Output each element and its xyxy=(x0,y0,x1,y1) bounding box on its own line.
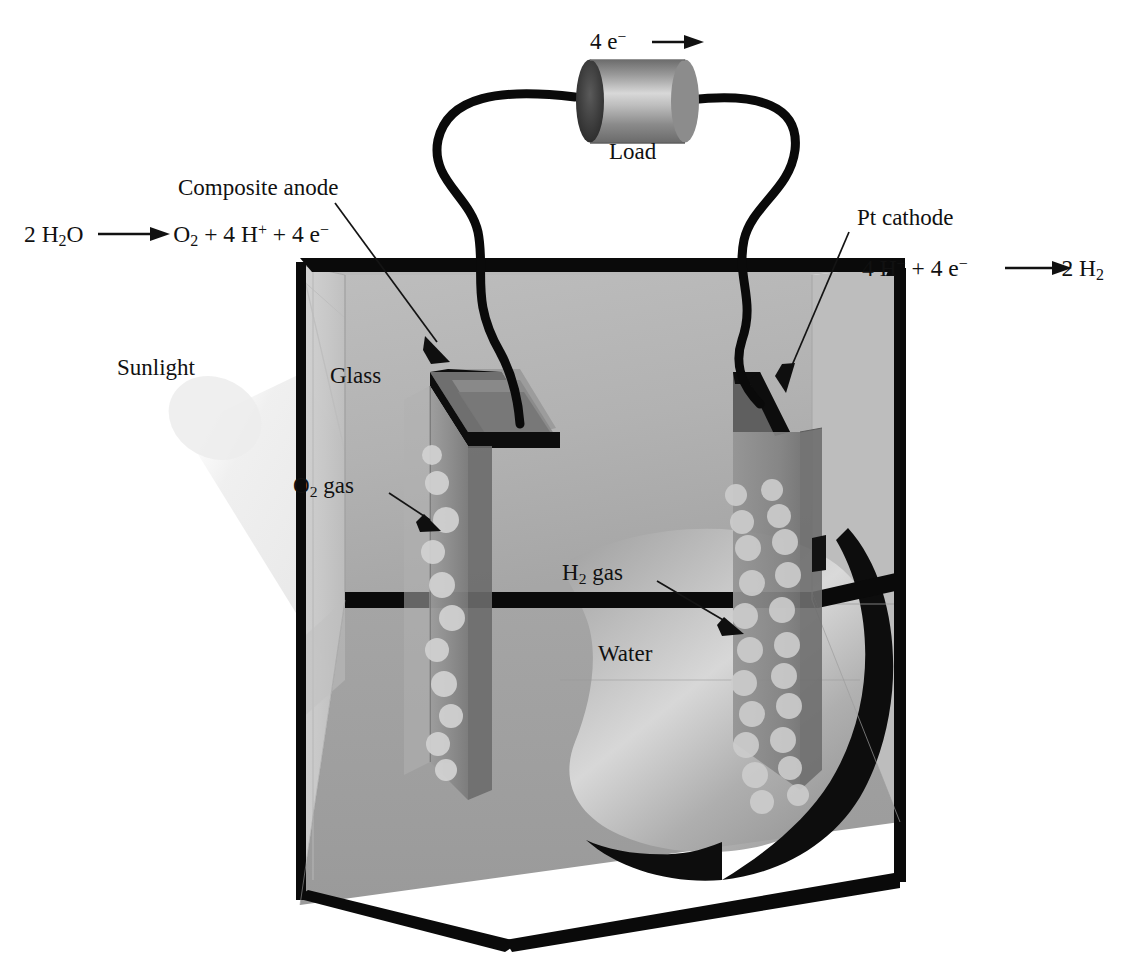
glass-label: Glass xyxy=(330,364,381,387)
anode-equation-reactant: 2 xyxy=(24,221,36,247)
tank-left-front-edge xyxy=(296,262,306,900)
diagram-canvas: 2 H2O O2 + 4 H+ + 4 e− 4 H+ + 4 e− 2 H2 … xyxy=(0,0,1129,956)
anode-plate-side xyxy=(468,446,492,800)
load-component xyxy=(576,60,699,144)
anode-equation: 2 H2O O2 + 4 H+ + 4 e− xyxy=(24,222,329,249)
tank-bottom-front-edge xyxy=(505,872,900,952)
cathode-equation: 4 H+ + 4 e− 2 H2 xyxy=(862,256,1104,283)
composite-anode-label: Composite anode xyxy=(178,176,338,199)
cathode-equation-product-num: 2 xyxy=(1061,255,1073,281)
electron-flow-arrow xyxy=(652,35,704,49)
o2-gas-label: O2 gas xyxy=(293,474,354,500)
load-label: Load xyxy=(609,140,656,163)
tank-right-front-edge xyxy=(894,268,906,882)
cathode-plate-side xyxy=(800,428,822,790)
h2-gas-label: H2 gas xyxy=(562,561,623,587)
pt-cathode-label: Pt cathode xyxy=(857,206,953,229)
electron-flow-label: 4 e− xyxy=(590,29,626,53)
sunlight-label: Sunlight xyxy=(117,356,195,379)
tank-bottom-left-edge xyxy=(296,890,520,952)
diagram-svg xyxy=(0,0,1129,956)
tank-top-back-edge xyxy=(300,258,905,272)
water-label: Water xyxy=(598,642,652,665)
